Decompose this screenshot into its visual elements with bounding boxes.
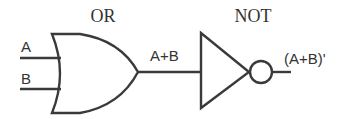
input-b-label: B (21, 70, 31, 87)
or-gate-icon (52, 34, 138, 113)
not-gate-triangle-icon (201, 33, 249, 108)
input-a-label: A (21, 38, 31, 55)
or-gate-title: OR (90, 6, 115, 26)
output-label: (A+B)' (284, 50, 326, 67)
not-gate-title: NOT (235, 6, 272, 26)
logic-diagram: OR NOT A B A+B (A+B)' (0, 0, 351, 119)
intermediate-label: A+B (150, 47, 179, 64)
inversion-bubble-icon (250, 61, 272, 83)
logic-diagram-svg: OR NOT A B A+B (A+B)' (0, 0, 351, 119)
